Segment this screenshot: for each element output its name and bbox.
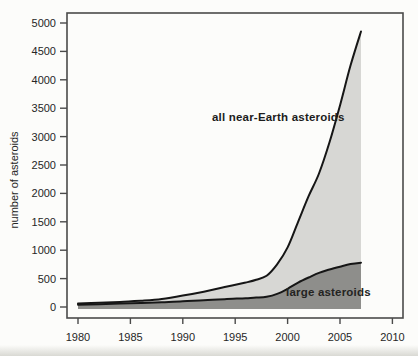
y-tick-label: 5000 xyxy=(32,17,56,29)
y-tick-label: 500 xyxy=(38,273,56,285)
x-tick-label: 1995 xyxy=(223,331,247,343)
y-tick-label: 3000 xyxy=(32,131,56,143)
y-tick-label: 3500 xyxy=(32,102,56,114)
y-axis-title: number of asteroids xyxy=(8,109,22,251)
x-tick-label: 1980 xyxy=(66,331,90,343)
x-tick-label: 1985 xyxy=(118,331,142,343)
all-near-earth-asteroids-area xyxy=(78,32,361,310)
x-tick-label: 1990 xyxy=(171,331,195,343)
x-tick-label: 2010 xyxy=(380,331,404,343)
y-tick-label: 4000 xyxy=(32,74,56,86)
scan-edge-artifact xyxy=(0,345,418,356)
series-label-all-near-earth-asteroids: all near-Earth asteroids xyxy=(212,111,345,123)
y-tick-label: 1500 xyxy=(32,216,56,228)
y-tick-label: 1000 xyxy=(32,244,56,256)
y-tick-label: 2000 xyxy=(32,187,56,199)
x-tick-label: 2000 xyxy=(275,331,299,343)
y-tick-label: 4500 xyxy=(32,45,56,57)
y-tick-label: 0 xyxy=(50,301,56,313)
x-tick-label: 2005 xyxy=(328,331,352,343)
asteroid-discovery-chart: 0500100015002000250030003500400045005000… xyxy=(0,0,418,356)
y-tick-label: 2500 xyxy=(32,159,56,171)
series-label-large-asteroids: large asteroids xyxy=(286,286,371,298)
asteroid-discovery-figure: 0500100015002000250030003500400045005000… xyxy=(0,0,418,356)
